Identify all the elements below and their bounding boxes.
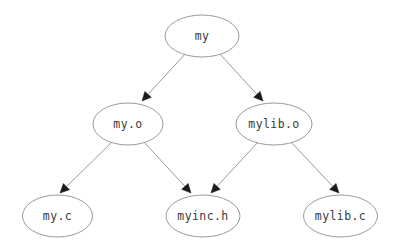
node-mylib_o[interactable]: mylib.o [236,103,312,145]
node-my[interactable]: my [165,15,239,57]
node-label: myinc.h [177,209,228,223]
edge-my_o-to-myinc_h [143,141,191,193]
edge-mylib_o-to-mylib_c [290,141,339,193]
edge-line [66,141,113,187]
edge-my_o-to-my_c [60,141,113,193]
node-label: mylib.o [248,117,299,131]
edge-line [219,53,257,94]
edge-my-to-mylib_o [219,53,263,101]
node-my_o[interactable]: my.o [93,103,163,145]
edge-line [143,141,185,186]
node-label: my.c [43,209,72,223]
dependency-graph-svg: mymy.omylib.omy.cmyinc.hmylib.c [0,0,400,248]
node-label: mylib.c [315,209,366,223]
edge-line [290,141,333,186]
edge-my-to-my_o [142,53,186,101]
edge-line [148,53,186,94]
node-myinc_h[interactable]: myinc.h [166,195,240,237]
node-label: my.o [113,117,142,131]
node-my_c[interactable]: my.c [23,195,93,237]
edge-mylib_o-to-myinc_h [211,141,259,193]
dependency-graph-canvas: mymy.omylib.omy.cmyinc.hmylib.c [0,0,400,248]
edge-line [217,141,259,186]
node-label: my [195,29,210,43]
node-mylib_c[interactable]: mylib.c [304,195,378,237]
nodes-layer: mymy.omylib.omy.cmyinc.hmylib.c [23,15,378,237]
